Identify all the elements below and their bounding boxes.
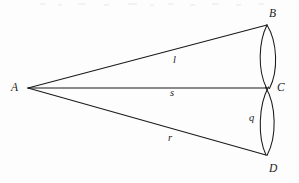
scan-artifact <box>128 3 137 5</box>
scan-artifact <box>190 4 195 6</box>
scan-artifact <box>40 3 46 5</box>
upper-lens-left-arc <box>260 25 267 88</box>
diagram-canvas: A B C D l s r q <box>0 0 299 183</box>
segment-l-line <box>28 25 267 88</box>
segment-label-r: r <box>168 133 172 144</box>
vertex-label-C: C <box>277 82 285 94</box>
vertex-label-A: A <box>11 82 18 94</box>
segment-label-s: s <box>170 88 174 99</box>
scan-artifact <box>150 4 154 6</box>
lower-lens-left-arc <box>260 87 268 155</box>
scan-artifact <box>236 4 241 6</box>
segment-label-q: q <box>249 113 254 124</box>
upper-lens-right-arc <box>267 25 276 89</box>
scan-artifact <box>212 3 219 5</box>
vertex-label-D: D <box>269 163 277 175</box>
segment-label-l: l <box>173 55 176 66</box>
scan-artifact <box>58 4 62 6</box>
scan-artifact <box>258 3 264 5</box>
segment-r-line <box>28 88 266 155</box>
vertex-label-B: B <box>269 8 276 20</box>
geometry-figure <box>0 0 299 183</box>
scan-artifact <box>104 4 109 6</box>
scan-artifact <box>78 3 85 5</box>
scan-artifact <box>168 3 174 5</box>
lower-lens-right-arc <box>266 87 275 156</box>
